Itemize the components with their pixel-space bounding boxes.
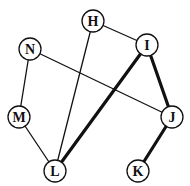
node-M: M — [8, 106, 30, 128]
node-L: L — [44, 160, 66, 182]
node-label: L — [50, 164, 59, 179]
node-label: N — [25, 42, 35, 57]
node-label: I — [144, 38, 149, 53]
node-J: J — [161, 106, 183, 128]
node-I: I — [136, 34, 158, 56]
node-N: N — [19, 38, 41, 60]
node-label: J — [169, 110, 176, 125]
node-label: M — [12, 110, 25, 125]
nodes-group: HINMJLK — [8, 10, 183, 182]
graph-diagram: HINMJLK — [0, 0, 190, 186]
edge-H-L — [55, 21, 93, 171]
node-label: H — [88, 14, 99, 29]
node-K: K — [127, 160, 149, 182]
node-H: H — [82, 10, 104, 32]
node-label: K — [133, 164, 144, 179]
edge-I-L — [55, 45, 147, 171]
